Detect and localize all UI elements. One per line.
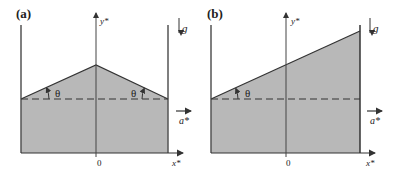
y-axis-label: y* (99, 16, 109, 26)
fluid-region (21, 65, 168, 153)
origin-label: 0 (97, 158, 102, 168)
panel-label-a: (a) (16, 6, 31, 21)
angle-label: θ (245, 87, 250, 99)
x-axis-label: x* (365, 158, 375, 168)
origin-label: 0 (286, 158, 291, 168)
gravity-label: g (373, 22, 379, 34)
panel-a: θ θ (a) y* 0 x* g a* (16, 6, 191, 168)
y-axis-label: y* (290, 16, 300, 26)
gravity-label: g (182, 22, 188, 34)
angle-label-left: θ (55, 87, 60, 99)
acceleration-label: a* (370, 115, 380, 126)
diagram: θ θ (a) y* 0 x* g a* θ (b) y* 0 x* g a* (0, 0, 398, 169)
x-axis-label: x* (171, 158, 181, 168)
angle-label-right: θ (131, 87, 136, 99)
acceleration-label: a* (179, 115, 189, 126)
panel-b: θ (b) y* 0 x* g a* (207, 6, 382, 168)
panel-label-b: (b) (207, 6, 223, 21)
